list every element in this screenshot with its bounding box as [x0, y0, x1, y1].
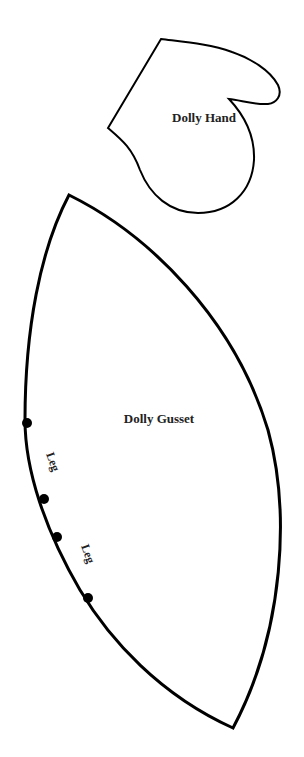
- gusset-label: Dolly Gusset: [124, 411, 195, 426]
- notch-dot: [39, 494, 49, 504]
- pattern-sheet: Dolly Hand Leg Leg Dolly Gusset: [0, 0, 304, 757]
- leg-marker-1: Leg: [43, 450, 63, 473]
- notch-dot: [22, 418, 32, 428]
- leg-marker-2: Leg: [78, 542, 98, 565]
- gusset-outline: [25, 195, 280, 728]
- dolly-gusset-piece: Leg Leg Dolly Gusset: [22, 195, 280, 728]
- notch-dot: [83, 593, 93, 603]
- notch-dot: [52, 532, 62, 542]
- dolly-hand-piece: Dolly Hand: [108, 39, 280, 213]
- hand-outline: [108, 39, 280, 213]
- hand-label: Dolly Hand: [172, 110, 237, 125]
